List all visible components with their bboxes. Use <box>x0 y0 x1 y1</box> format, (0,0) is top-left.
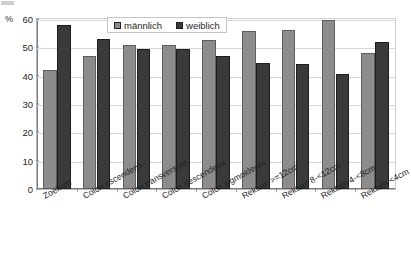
y-axis-tick-label: 10 <box>7 156 33 165</box>
y-axis-tick-label: 50 <box>7 43 33 52</box>
y-axis-tick-label: 30 <box>7 100 33 109</box>
y-axis-tick-label: 40 <box>7 71 33 80</box>
x-axis-labels: ZoekumColon ascendensColon transversumCo… <box>37 192 395 258</box>
bar-female <box>57 25 71 189</box>
y-axis-tick-mark <box>36 160 39 161</box>
y-axis-labels: 0102030405060 <box>4 18 33 190</box>
bar-female <box>375 42 389 189</box>
legend-label-male: männlich <box>124 20 162 31</box>
bar-male <box>43 70 57 189</box>
legend-swatch-icon-female <box>176 22 183 29</box>
bar-group <box>355 19 395 189</box>
y-axis-tick-mark <box>36 19 39 20</box>
bar-group <box>37 19 77 189</box>
bar-female <box>97 39 111 189</box>
y-axis-tick-mark <box>36 75 39 76</box>
y-axis-tick-label: 20 <box>7 128 33 137</box>
chart-legend: männlich weiblich <box>107 17 227 33</box>
bar-group <box>77 19 117 189</box>
y-axis-tick-mark <box>36 189 39 190</box>
y-axis-tick-mark <box>36 47 39 48</box>
y-axis-tick-label: 0 <box>7 185 33 194</box>
bar-female <box>336 74 350 189</box>
legend-label-female: weiblich <box>186 20 220 31</box>
y-axis-tick-mark <box>36 104 39 105</box>
scan-artifact <box>1 1 14 5</box>
y-axis-tick-mark <box>36 132 39 133</box>
legend-swatch-icon-male <box>114 22 121 29</box>
bar-male <box>83 56 97 189</box>
legend-item-male: männlich <box>114 20 162 31</box>
legend-item-female: weiblich <box>176 20 220 31</box>
y-axis-tick-label: 60 <box>7 15 33 24</box>
